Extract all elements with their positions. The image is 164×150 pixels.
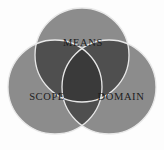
venn-label-domain: DOMAIN xyxy=(98,91,145,102)
venn-diagram-canvas: MEANS SCOPE DOMAIN xyxy=(0,0,164,150)
venn-label-scope: SCOPE xyxy=(29,91,65,102)
venn-diagram: MEANS SCOPE DOMAIN xyxy=(0,0,164,150)
venn-label-means: MEANS xyxy=(63,37,103,48)
